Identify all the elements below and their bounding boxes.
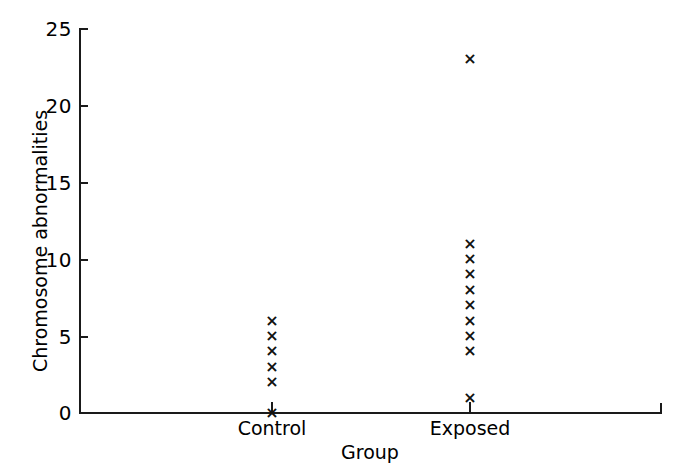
data-point-control: × <box>264 359 280 375</box>
data-point-exposed: × <box>462 251 478 267</box>
data-point-control: × <box>264 343 280 359</box>
data-point-exposed: × <box>462 390 478 406</box>
data-point-exposed: × <box>462 51 478 67</box>
data-point-exposed: × <box>462 297 478 313</box>
data-point-control: × <box>264 313 280 329</box>
data-point-exposed: × <box>462 236 478 252</box>
plot-area: ×××××××××××××××× <box>0 0 676 469</box>
data-point-exposed: × <box>462 328 478 344</box>
data-point-exposed: × <box>462 282 478 298</box>
data-point-control: × <box>264 374 280 390</box>
chromosome-abnormalities-scatter-plot: 25 20 15 10 5 0 Control Exposed Chromoso… <box>0 0 676 469</box>
data-point-control: × <box>264 328 280 344</box>
data-point-exposed: × <box>462 343 478 359</box>
data-point-exposed: × <box>462 266 478 282</box>
data-point-exposed: × <box>462 313 478 329</box>
data-point-control: × <box>264 405 280 421</box>
